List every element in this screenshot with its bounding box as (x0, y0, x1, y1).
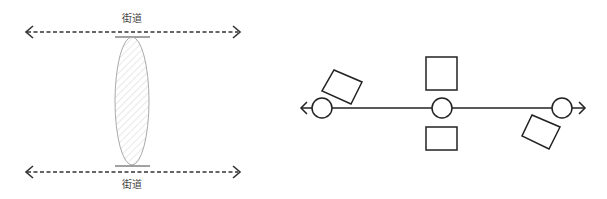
node-circle-right (552, 98, 572, 118)
diagram-canvas: 街道 街道 (0, 0, 607, 199)
street-crossing-diagram: 街道 街道 (26, 12, 240, 190)
middle-top-square (426, 57, 457, 90)
lower-right-tilted-rect (522, 115, 560, 149)
crossing-ellipse (115, 37, 149, 165)
node-circle-middle (432, 98, 452, 118)
upper-left-tilted-rect (322, 70, 362, 104)
top-street (26, 26, 240, 38)
top-street-label: 街道 (122, 12, 142, 24)
bottom-street-label: 街道 (122, 178, 142, 190)
node-axis-diagram (301, 57, 585, 150)
bottom-street (26, 166, 240, 178)
node-circle-left (312, 98, 332, 118)
middle-bottom-square (426, 127, 457, 150)
